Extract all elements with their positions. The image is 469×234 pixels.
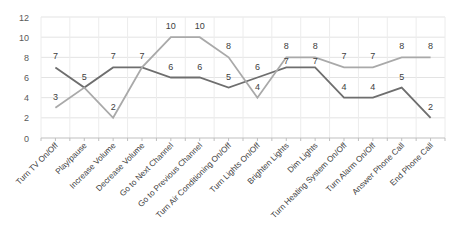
- x-category-label: Answer Phone Call: [351, 141, 407, 197]
- y-tick-label: 0: [24, 134, 29, 144]
- data-label: 8: [428, 41, 433, 51]
- data-label: 2: [428, 102, 433, 112]
- data-label: 7: [341, 51, 346, 61]
- data-label: 6: [197, 62, 202, 72]
- y-axis: 024681012: [19, 13, 29, 144]
- data-label: 7: [111, 51, 116, 61]
- line-chart: 024681012 Turn TV On/OffPlay/pauseIncrea…: [0, 0, 469, 234]
- data-label: 4: [255, 82, 260, 92]
- data-label: 6: [255, 62, 260, 72]
- y-tick-label: 2: [24, 113, 29, 123]
- chart-canvas: 024681012 Turn TV On/OffPlay/pauseIncrea…: [0, 0, 469, 234]
- data-label: 10: [195, 21, 205, 31]
- y-tick-label: 8: [24, 53, 29, 63]
- y-tick-label: 4: [24, 93, 29, 103]
- x-category-label: Turn TV On/Off: [14, 141, 60, 187]
- y-tick-label: 12: [19, 13, 29, 23]
- data-label: 8: [226, 41, 231, 51]
- data-label: 7: [313, 56, 318, 66]
- data-label: 8: [399, 41, 404, 51]
- data-label: 10: [166, 21, 176, 31]
- data-label: 5: [82, 72, 87, 82]
- data-label: 7: [370, 51, 375, 61]
- data-label: 5: [399, 72, 404, 82]
- x-category-label: Go to Next Channel: [118, 141, 175, 198]
- data-label: 7: [139, 51, 144, 61]
- data-label: 4: [370, 82, 375, 92]
- x-category-label: Turn Alarm On/Off: [324, 141, 378, 195]
- y-tick-label: 10: [19, 33, 29, 43]
- x-axis: Turn TV On/OffPlay/pauseIncrease VolumeD…: [14, 138, 445, 220]
- data-label: 5: [226, 72, 231, 82]
- x-category-label: Turn Lights On/Off: [208, 141, 262, 195]
- data-label: 8: [313, 41, 318, 51]
- data-label: 7: [284, 56, 289, 66]
- y-tick-label: 6: [24, 73, 29, 83]
- data-label: 4: [341, 82, 346, 92]
- x-category-label: Decrease Volume: [94, 141, 146, 193]
- data-label: 3: [53, 92, 58, 102]
- data-label: 7: [53, 51, 58, 61]
- data-label: 8: [284, 41, 289, 51]
- data-label: 6: [168, 62, 173, 72]
- data-label: 2: [111, 102, 116, 112]
